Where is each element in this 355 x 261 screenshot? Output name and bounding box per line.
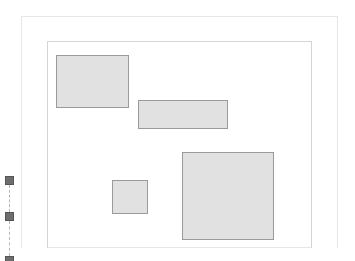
block-top-left[interactable] [56,55,129,108]
resize-handle-middle[interactable] [5,212,14,221]
resize-handle-top[interactable] [5,176,14,185]
block-large[interactable] [182,152,274,240]
block-small-square[interactable] [112,180,148,214]
resize-handle-bottom[interactable] [5,256,14,261]
handle-connector-line [9,221,11,256]
block-middle-wide[interactable] [138,100,228,129]
handle-connector-line [9,185,11,212]
